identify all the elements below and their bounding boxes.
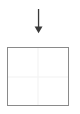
arrow-stem xyxy=(38,9,39,28)
empty-square-frame xyxy=(7,47,69,106)
square-frame-interior xyxy=(8,48,68,105)
arrow-down-icon xyxy=(32,9,45,34)
center-guide-horizontal xyxy=(8,76,68,77)
arrow-down-glyph xyxy=(32,9,45,34)
diagram-canvas xyxy=(0,0,80,114)
arrow-head xyxy=(35,27,43,34)
